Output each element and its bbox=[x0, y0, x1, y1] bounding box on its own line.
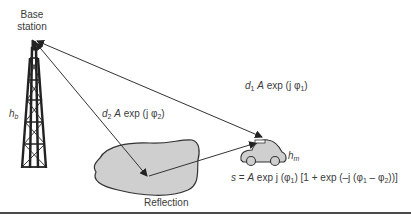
base-height-label: hb bbox=[9, 108, 18, 121]
base-station-label-line2: station bbox=[2, 21, 62, 33]
formula-part2: ) [1 + exp (–j ( bbox=[294, 172, 356, 183]
amplitude-symbol: A bbox=[114, 108, 121, 119]
reflection-surface bbox=[94, 140, 199, 195]
two-ray-propagation-diagram: Base station hb hm d1 A exp (j φ1) d2 A … bbox=[0, 0, 411, 218]
bottom-rule bbox=[0, 212, 411, 214]
reflected-ray-label: d2 A exp (j φ2) bbox=[102, 108, 165, 121]
formula-part3: ))] bbox=[388, 172, 397, 183]
d2-subscript: 2 bbox=[108, 113, 112, 120]
base-station-label-line1: Base bbox=[2, 9, 62, 21]
formula-part1: exp j ( bbox=[254, 172, 284, 183]
exp-text: exp (j bbox=[267, 80, 294, 91]
hm-subscript: m bbox=[294, 155, 300, 162]
exp-text: exp (j bbox=[124, 108, 151, 119]
mobile-height-label: hm bbox=[288, 150, 299, 163]
direct-ray-label: d1 A exp (j φ1) bbox=[245, 80, 308, 93]
close-paren: ) bbox=[161, 108, 164, 119]
d1-subscript: 1 bbox=[251, 85, 255, 92]
hb-subscript: b bbox=[15, 113, 19, 120]
equals: = bbox=[236, 172, 247, 183]
base-station-tower-icon bbox=[22, 40, 46, 168]
direct-ray-arrow bbox=[37, 41, 262, 137]
minus: – bbox=[367, 172, 378, 183]
received-signal-formula: s = A exp j (φ1) [1 + exp (–j (φ1 – φ2))… bbox=[231, 172, 398, 185]
reflection-label: Reflection bbox=[144, 197, 188, 209]
diagram-graphics bbox=[0, 0, 411, 218]
close-paren: ) bbox=[304, 80, 307, 91]
amplitude-symbol: A bbox=[257, 80, 264, 91]
mobile-car-icon bbox=[241, 140, 286, 166]
base-station-label: Base station bbox=[2, 9, 62, 32]
